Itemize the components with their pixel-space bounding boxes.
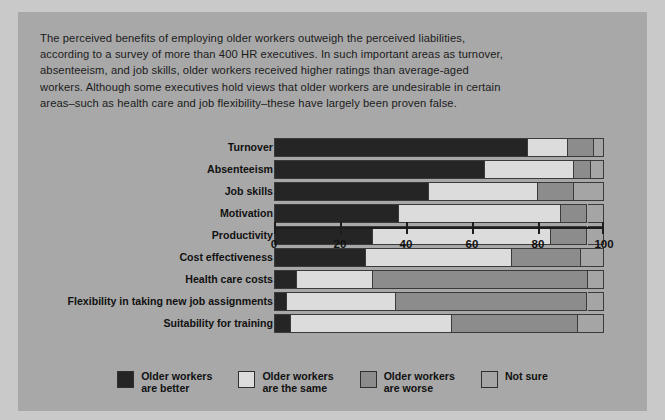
x-axis-tick [340, 222, 342, 234]
bar-segment [399, 204, 561, 223]
bar-segment [274, 270, 297, 289]
legend-item[interactable]: Older workers are better [117, 370, 212, 395]
category-label: Absenteeism [207, 159, 273, 179]
x-axis-tick-label: 80 [532, 238, 545, 250]
x-axis-tick-label: 20 [334, 238, 347, 250]
bar-segment [588, 292, 605, 311]
stacked-bar [274, 138, 604, 157]
stacked-bar [274, 292, 604, 311]
bar-segment [578, 314, 604, 333]
stacked-bar [274, 160, 604, 179]
legend-label: Older workers are better [141, 370, 212, 395]
bar-segment [485, 160, 574, 179]
chart-row: Job skills [18, 181, 647, 203]
category-label: Motivation [220, 203, 273, 223]
category-label: Turnover [228, 137, 273, 157]
legend-label: Older workers are worse [384, 370, 455, 395]
bar-segment [396, 292, 587, 311]
bar-segment [588, 270, 605, 289]
chart-legend: Older workers are betterOlder workers ar… [18, 370, 647, 412]
chart-row: Flexibility in taking new job assignment… [18, 291, 647, 313]
stacked-bar [274, 314, 604, 333]
bar-segment [297, 270, 373, 289]
x-axis-tick-label: 100 [594, 238, 613, 250]
x-axis-line [274, 227, 604, 229]
legend-label: Not sure [505, 370, 548, 382]
x-axis-tick-label: 40 [400, 238, 413, 250]
bar-segment [274, 138, 528, 157]
chart-row: Motivation [18, 203, 647, 225]
x-axis-tick [274, 222, 276, 234]
x-axis-tick-label: 0 [271, 238, 277, 250]
x-axis-tick [602, 222, 604, 234]
stacked-bar [274, 204, 604, 223]
bar-segment [274, 314, 291, 333]
bar-segment [591, 160, 604, 179]
bar-segment [274, 182, 429, 201]
legend-swatch-icon [238, 371, 255, 388]
bar-segment [452, 314, 577, 333]
chart-row: Health care costs [18, 269, 647, 291]
bar-segment [373, 270, 588, 289]
bar-segment [561, 204, 587, 223]
intro-paragraph: The perceived benefits of employing olde… [40, 30, 510, 111]
category-label: Job skills [225, 181, 273, 201]
bar-segment [291, 314, 453, 333]
x-axis-tick [472, 222, 474, 234]
bar-segment [274, 292, 287, 311]
legend-label: Older workers are the same [262, 370, 333, 395]
bar-segment [568, 138, 594, 157]
chart-panel: The perceived benefits of employing olde… [18, 12, 647, 411]
chart-row: Turnover [18, 137, 647, 159]
stacked-bar [274, 270, 604, 289]
legend-swatch-icon [481, 371, 498, 388]
category-label: Productivity [212, 225, 273, 245]
legend-swatch-icon [117, 371, 134, 388]
bar-segment [429, 182, 538, 201]
bar-segment [574, 182, 604, 201]
bar-segment [274, 204, 399, 223]
bar-segment [274, 160, 485, 179]
bar-segment [538, 182, 574, 201]
bar-segment [528, 138, 568, 157]
category-label: Cost effectiveness [179, 247, 273, 267]
x-axis-tick [406, 222, 408, 234]
chart-row: Absenteeism [18, 159, 647, 181]
legend-swatch-icon [360, 371, 377, 388]
x-axis: 020406080100 [274, 227, 604, 261]
stacked-bar [274, 182, 604, 201]
legend-item[interactable]: Older workers are worse [360, 370, 455, 395]
bar-segment [287, 292, 396, 311]
category-label: Health care costs [185, 269, 273, 289]
legend-item[interactable]: Not sure [481, 370, 548, 388]
bar-segment [574, 160, 591, 179]
legend-item[interactable]: Older workers are the same [238, 370, 333, 395]
bar-segment [588, 204, 605, 223]
bar-segment [594, 138, 604, 157]
category-label: Suitability for training [164, 313, 273, 333]
chart-row: Suitability for training [18, 313, 647, 335]
x-axis-tick [538, 222, 540, 234]
x-axis-tick-label: 60 [466, 238, 479, 250]
category-label: Flexibility in taking new job assignment… [68, 291, 273, 311]
